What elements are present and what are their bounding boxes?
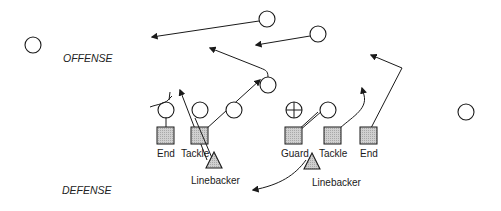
offense-label: OFFENSE [63, 52, 113, 64]
label-end-right: End [360, 148, 378, 159]
offense-player-wide-left [25, 37, 41, 53]
label-end-left: End [157, 148, 175, 159]
football-play-diagram [0, 0, 501, 211]
defense-tackle-right [324, 127, 341, 144]
route-end-right [371, 55, 402, 128]
label-tackle-left: Tackle [181, 148, 209, 159]
defense-guard [285, 127, 302, 144]
defense-end-left [157, 127, 174, 144]
label-linebacker-left: Linebacker [191, 175, 240, 186]
offense-player-back [260, 77, 276, 93]
offense-player-line-5 [320, 102, 336, 118]
offense-player-line-3 [226, 102, 242, 118]
offense-player-deep-1 [259, 11, 275, 27]
defense-end-right [360, 127, 377, 144]
offense-player-deep-2 [310, 26, 326, 42]
route-deep-2 [256, 36, 310, 45]
label-linebacker-right: Linebacker [312, 177, 361, 188]
label-tackle-right: Tackle [319, 148, 347, 159]
offense-player-line-2 [192, 102, 208, 118]
route-back [210, 48, 268, 77]
offense-player-line-1 [158, 102, 174, 118]
route-tackle-right [338, 88, 365, 130]
offense-player-wide-right [458, 104, 474, 120]
route-linebacker-right [253, 160, 306, 190]
route-end-left [150, 92, 172, 107]
label-guard: Guard [281, 148, 309, 159]
route-deep-1 [152, 21, 259, 37]
defense-label: DEFENSE [62, 184, 112, 196]
